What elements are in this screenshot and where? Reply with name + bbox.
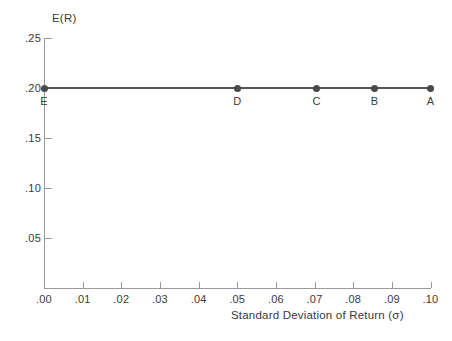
- x-tick-mark: [392, 282, 393, 288]
- x-tick-mark: [276, 282, 277, 288]
- x-tick-mark: [121, 282, 122, 288]
- x-tick-mark: [160, 282, 161, 288]
- y-axis-title: E(R): [52, 12, 76, 24]
- x-tick-label: .00: [26, 293, 62, 305]
- x-tick-mark: [315, 282, 316, 288]
- data-point-c: [313, 85, 320, 92]
- x-tick-mark: [237, 282, 238, 288]
- x-tick-mark: [199, 282, 200, 288]
- x-tick-label: .03: [142, 293, 178, 305]
- x-axis-line: [44, 288, 431, 289]
- data-point-label-e: E: [29, 95, 59, 107]
- x-tick-label: .01: [65, 293, 101, 305]
- data-point-a: [427, 85, 434, 92]
- y-tick-mark: [45, 188, 52, 189]
- x-tick-mark: [431, 282, 432, 288]
- x-tick-label: .08: [335, 293, 371, 305]
- y-tick-label: .25: [1, 32, 41, 44]
- data-point-d: [234, 85, 241, 92]
- y-tick-label: .20: [1, 82, 41, 94]
- x-tick-label: .09: [374, 293, 410, 305]
- x-tick-mark: [44, 282, 45, 288]
- y-axis-line: [44, 38, 45, 288]
- x-tick-label: .02: [103, 293, 139, 305]
- y-tick-mark: [45, 38, 52, 39]
- x-tick-label: .05: [219, 293, 255, 305]
- data-point-label-c: C: [301, 95, 331, 107]
- y-tick-label: .15: [1, 132, 41, 144]
- y-tick-label: .05: [1, 232, 41, 244]
- x-tick-label: .04: [181, 293, 217, 305]
- y-tick-mark: [45, 138, 52, 139]
- data-point-b: [371, 85, 378, 92]
- x-tick-label: .07: [297, 293, 333, 305]
- data-point-label-a: A: [416, 95, 446, 107]
- chart-canvas: E(R) .25.20.15.10.05 .00.01.02.03.04.05.…: [0, 0, 452, 341]
- data-point-e: [41, 85, 48, 92]
- x-tick-label: .06: [258, 293, 294, 305]
- x-tick-mark: [353, 282, 354, 288]
- y-tick-mark: [45, 238, 52, 239]
- data-point-label-d: D: [222, 95, 252, 107]
- y-tick-label: .10: [1, 182, 41, 194]
- x-tick-label: .10: [413, 293, 449, 305]
- data-point-label-b: B: [359, 95, 389, 107]
- x-tick-mark: [83, 282, 84, 288]
- x-axis-title: Standard Deviation of Return (σ): [231, 309, 404, 321]
